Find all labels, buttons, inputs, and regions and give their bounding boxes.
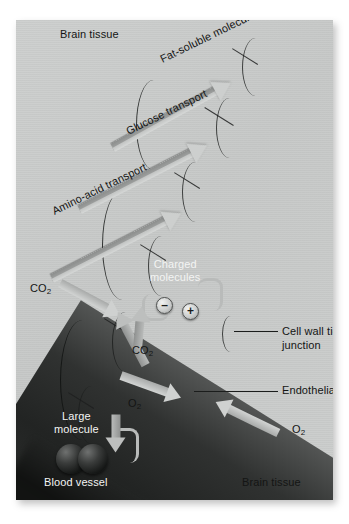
o2-outer-text: O xyxy=(292,423,301,435)
callout-endothelial-cell: Endothelial cell xyxy=(282,384,333,396)
co2-upper-text: CO xyxy=(30,282,47,294)
cell-boundary-curve xyxy=(182,162,209,222)
label-co2-upper: CO2 xyxy=(30,282,51,296)
cell-boundary-curve xyxy=(216,98,243,158)
label-blood-vessel: Blood vessel xyxy=(44,476,108,488)
large-molecule-line-2: molecule xyxy=(54,423,99,436)
cell-boundary-curve xyxy=(242,38,269,96)
charged-line-2: molecules xyxy=(150,271,200,284)
leader-cell-wall-tight-junction xyxy=(234,331,278,332)
large-molecule-line-1: Large xyxy=(54,410,99,423)
callout-cell-wall-tight-junction: Cell wall tight junction xyxy=(282,324,333,352)
label-brain-tissue-top: Brain tissue xyxy=(60,28,119,40)
co2-lower-text: CO xyxy=(132,344,149,356)
o2-outer-subscript: 2 xyxy=(301,428,306,437)
o2-inner-text: O xyxy=(128,397,137,409)
co2-upper-subscript: 2 xyxy=(47,287,52,296)
large-molecule-sphere xyxy=(78,444,108,474)
leader-endothelial-cell xyxy=(194,391,278,392)
label-large-molecule: Large molecule xyxy=(54,410,99,435)
figure-root: – + Brain tissue Fat-soluble molecule Gl… xyxy=(0,0,349,524)
callout-ctj-line-2: junction xyxy=(282,338,333,352)
o2-inner-subscript: 2 xyxy=(137,402,142,411)
illustration-plate: – + Brain tissue Fat-soluble molecule Gl… xyxy=(16,20,333,500)
label-co2-lower: CO2 xyxy=(132,344,153,358)
large-molecule-rejection-arrow xyxy=(112,415,121,439)
label-o2-outer: O2 xyxy=(292,423,305,437)
label-brain-tissue-bottom: Brain tissue xyxy=(242,476,301,488)
charged-line-1: Charged xyxy=(150,258,200,271)
callout-ctj-line-1: Cell wall tight xyxy=(282,324,333,338)
co2-lower-subscript: 2 xyxy=(149,349,154,358)
label-o2-inner: O2 xyxy=(128,397,141,411)
positive-ion: + xyxy=(182,303,199,320)
callout-tick-curve xyxy=(222,316,239,352)
label-charged-molecules: Charged molecules xyxy=(150,258,200,283)
charged-rejection-hook-right xyxy=(198,278,223,311)
